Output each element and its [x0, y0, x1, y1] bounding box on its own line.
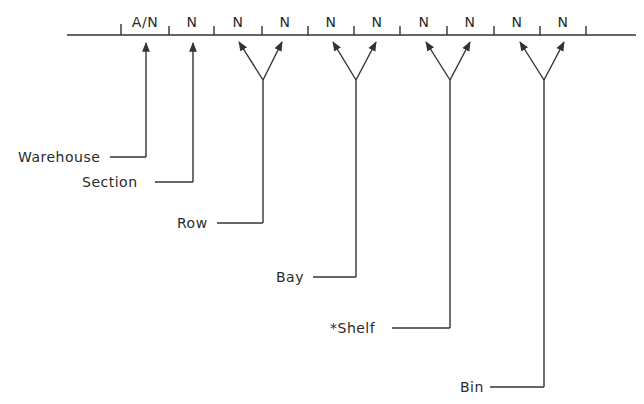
label-section: Section	[82, 174, 138, 190]
field-9: N	[543, 14, 583, 30]
label-bin: Bin	[460, 379, 484, 395]
field-7: N	[450, 14, 490, 30]
field-6: N	[404, 14, 444, 30]
label-shelf: *Shelf	[330, 320, 375, 336]
label-row: Row	[177, 215, 208, 231]
field-1: N	[172, 14, 212, 30]
location-code-diagram	[0, 0, 644, 404]
field-4: N	[311, 14, 351, 30]
field-3: N	[265, 14, 305, 30]
field-0: A/N	[125, 14, 165, 30]
field-2: N	[218, 14, 258, 30]
field-8: N	[497, 14, 537, 30]
label-warehouse: Warehouse	[18, 149, 100, 165]
field-5: N	[357, 14, 397, 30]
label-bay: Bay	[276, 269, 304, 285]
